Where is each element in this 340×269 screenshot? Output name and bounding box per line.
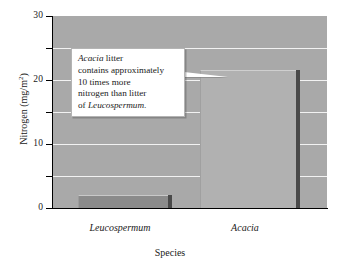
acacia-callout-annotation: Acacia litter contains approximately 10 … [71,48,185,117]
y-axis-title-main: Nitrogen (mg/m [18,80,29,145]
bar-acacia-shadow-edge [296,70,300,208]
callout-line-5-prefix: of [78,100,88,110]
bar-acacia-face [200,70,296,208]
y-tick-15 [46,112,53,113]
y-tick-25 [46,48,53,49]
bar-leucospermum-face [78,195,168,208]
y-tick-label-20: 20 [33,75,43,85]
y-tick-0 [46,208,53,209]
y-tick-label-30: 30 [33,11,43,21]
x-tick-label-acacia: Acacia [185,222,305,233]
y-tick-label-10: 10 [33,139,43,149]
bar-leucospermum [78,195,168,208]
callout-line-4: nitrogen than litter [78,88,179,100]
callout-line-5-italic: Leucospermum [88,100,144,110]
callout-line-1-rest: litter [104,53,124,63]
callout-line-5: of Leucospermum. [78,100,179,112]
x-axis-title: Species [0,247,340,258]
y-tick-5 [46,176,53,177]
x-tick-label-leucospermum: Leucospermum [45,222,195,233]
y-tick-30 [46,16,53,17]
y-tick-label-0: 0 [38,203,43,213]
y-tick-20 [46,80,53,81]
y-axis-title-superscript: 2 [17,77,25,81]
y-axis-title: Nitrogen (mg/m2) [17,34,29,184]
callout-line-1-italic: Acacia [78,53,104,63]
callout-line-5-tail: . [144,100,146,110]
y-tick-10 [46,144,53,145]
callout-line-2: contains approximately [78,65,179,77]
callout-pointer-icon [184,72,228,77]
nitrogen-by-species-bar-chart: 30 20 10 0 Nitrogen (mg/m2) Leucospermum… [0,0,340,269]
callout-line-1: Acacia litter [78,53,179,65]
bar-leucospermum-shadow-edge [168,195,172,208]
callout-line-3: 10 times more [78,77,179,89]
y-axis-title-end: ) [18,73,29,76]
x-axis-line [52,208,328,209]
bar-acacia [200,70,296,208]
